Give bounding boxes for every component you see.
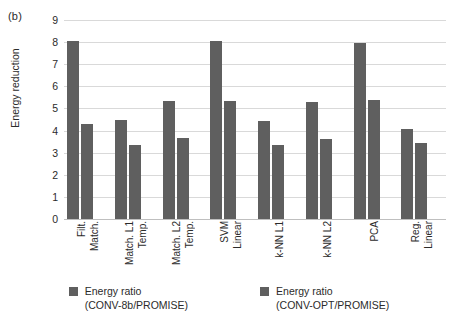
bar[interactable]	[354, 43, 366, 219]
y-tick-label-5: 5	[52, 103, 58, 114]
legend-label-line: (CONV-8b/PROMISE)	[85, 298, 188, 312]
bar-group	[64, 20, 112, 219]
x-axis-category-labels: Match.Filt.Temp.Match. L1Temp.Match. L2L…	[64, 221, 446, 279]
bar-group	[255, 20, 303, 219]
x-axis-label-line: Filt.	[75, 221, 88, 237]
x-axis-label-line: Linear	[422, 221, 435, 249]
y-tick-label-4: 4	[52, 125, 58, 136]
y-tick-label-9: 9	[52, 15, 58, 26]
x-axis-label-line: PCA	[368, 221, 381, 242]
y-tick-label-1: 1	[52, 192, 58, 203]
legend-label: Energy ratio(CONV-OPT/PROMISE)	[276, 284, 389, 312]
y-tick-label-3: 3	[52, 147, 58, 158]
legend-swatch-icon	[260, 287, 269, 296]
legend-label-line: Energy ratio	[85, 284, 188, 298]
x-axis-label: PCA	[357, 221, 391, 279]
bar[interactable]	[115, 120, 127, 219]
y-tick-label-7: 7	[52, 59, 58, 70]
x-axis-label: k-NN L2	[310, 221, 344, 279]
x-axis-label-line: Temp.	[183, 221, 196, 248]
bar[interactable]	[320, 139, 332, 219]
bar[interactable]	[272, 145, 284, 219]
bar-series-container	[64, 20, 446, 219]
x-axis-label-line: k-NN L1	[272, 221, 285, 258]
bar[interactable]	[258, 121, 270, 219]
bar-group	[112, 20, 160, 219]
bar-group	[207, 20, 255, 219]
bar-group	[160, 20, 208, 219]
x-axis-label-line: Match. L2	[170, 221, 183, 265]
x-axis-label: Temp.Match. L1	[119, 221, 153, 279]
x-axis-label-line: Reg.	[409, 221, 422, 242]
bar[interactable]	[129, 145, 141, 219]
y-tick-label-6: 6	[52, 81, 58, 92]
bar[interactable]	[368, 100, 380, 219]
x-axis-label: LinearReg.	[405, 221, 439, 279]
y-tick-label-0: 0	[52, 214, 58, 225]
legend-label-line: (CONV-OPT/PROMISE)	[276, 298, 389, 312]
legend-swatch-icon	[69, 287, 78, 296]
y-tick-label-8: 8	[52, 37, 58, 48]
legend-label: Energy ratio(CONV-8b/PROMISE)	[85, 284, 188, 312]
bar-group	[398, 20, 446, 219]
bar[interactable]	[415, 143, 427, 219]
chart-legend: Energy ratio(CONV-8b/PROMISE)Energy rati…	[0, 284, 458, 312]
bar[interactable]	[163, 101, 175, 219]
x-axis-label-line: Match.	[88, 221, 101, 251]
x-axis-label-line: Match. L1	[123, 221, 136, 265]
bar[interactable]	[224, 101, 236, 219]
bar[interactable]	[177, 138, 189, 219]
legend-label-line: Energy ratio	[276, 284, 389, 298]
bar[interactable]	[306, 102, 318, 219]
x-axis-label: Temp.Match. L2	[166, 221, 200, 279]
x-axis-label-line: Temp.	[136, 221, 149, 248]
x-axis-label: LinearSVM	[214, 221, 248, 279]
x-axis-label: k-NN L1	[262, 221, 296, 279]
x-axis-label: Match.Filt.	[71, 221, 105, 279]
x-axis-label-line: k-NN L2	[320, 221, 333, 258]
x-axis-label-line: Linear	[231, 221, 244, 249]
legend-item[interactable]: Energy ratio(CONV-OPT/PROMISE)	[260, 284, 389, 312]
bar[interactable]	[210, 41, 222, 219]
bar[interactable]	[81, 124, 93, 219]
bar-group	[351, 20, 399, 219]
bar[interactable]	[67, 41, 79, 219]
legend-item[interactable]: Energy ratio(CONV-8b/PROMISE)	[69, 284, 188, 312]
x-axis-label-line: SVM	[218, 221, 231, 243]
bar-group	[303, 20, 351, 219]
y-tick-label-2: 2	[52, 170, 58, 181]
bar[interactable]	[401, 129, 413, 219]
y-axis-title: Energy reduction	[9, 42, 21, 134]
panel-tag: (b)	[8, 10, 22, 22]
plot-area: 0123456789	[64, 20, 446, 219]
gridline-0	[64, 219, 446, 220]
figure-panel-b: (b) Energy reduction 0123456789 Match.Fi…	[0, 0, 458, 321]
